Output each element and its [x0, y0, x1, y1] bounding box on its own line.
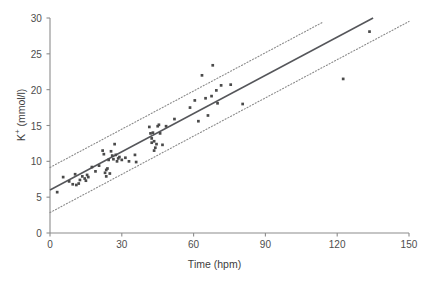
data-point [62, 176, 65, 179]
data-point [106, 167, 109, 170]
data-point [161, 144, 164, 147]
data-point [101, 149, 104, 152]
y-axis-title-suffix: (mmol/l) [15, 89, 27, 130]
data-point [158, 123, 161, 126]
y-axis-title-superscript: + [13, 129, 22, 133]
prediction-bands [50, 21, 409, 212]
regression-line [50, 18, 373, 190]
data-point [74, 173, 77, 176]
data-point [71, 183, 74, 186]
y-tick-label: 25 [16, 48, 42, 59]
data-point [204, 97, 207, 100]
data-point [207, 114, 210, 117]
data-point [216, 102, 219, 105]
data-point [56, 191, 59, 194]
data-point [201, 74, 204, 77]
y-tick-label: 5 [16, 192, 42, 203]
data-point [197, 120, 200, 123]
data-point [120, 159, 123, 162]
data-point [153, 149, 156, 152]
x-tick-label: 120 [329, 239, 346, 250]
data-point [85, 179, 88, 182]
data-point [103, 153, 106, 156]
y-axis-title: K+ (mmol/l) [13, 65, 27, 165]
data-point [189, 106, 192, 109]
data-point [110, 150, 113, 153]
data-point [134, 154, 137, 157]
data-point [107, 159, 110, 162]
data-point [124, 156, 127, 159]
x-tick-label: 150 [401, 239, 418, 250]
data-point [150, 141, 153, 144]
data-point [210, 95, 213, 98]
y-tick-label: 0 [16, 228, 42, 239]
data-point [193, 99, 196, 102]
data-point [113, 143, 116, 146]
data-point [81, 175, 84, 178]
x-tick-label: 90 [260, 239, 271, 250]
data-point [68, 180, 71, 183]
data-point [211, 64, 214, 67]
y-tick-label: 30 [16, 13, 42, 24]
data-point [173, 118, 176, 121]
data-point [155, 143, 158, 146]
data-point [229, 83, 232, 86]
data-point [241, 103, 244, 106]
data-point [368, 30, 371, 33]
x-tick-label: 30 [116, 239, 127, 250]
data-point [154, 146, 157, 149]
data-point [112, 158, 115, 161]
data-point [153, 140, 156, 143]
scatter-plot-canvas [0, 0, 429, 281]
data-point [77, 182, 80, 185]
data-point [165, 125, 168, 128]
data-point [104, 171, 107, 174]
data-point [128, 160, 131, 163]
data-point [215, 89, 218, 92]
data-point [159, 132, 162, 135]
y-axis-title-prefix: K [15, 134, 27, 141]
data-point [87, 176, 90, 179]
data-point [98, 164, 101, 167]
data-point [135, 161, 138, 164]
data-point [220, 84, 223, 87]
data-point [148, 126, 151, 129]
data-point [75, 184, 78, 187]
data-point [149, 132, 152, 135]
x-tick-label: 60 [188, 239, 199, 250]
data-point [152, 131, 155, 134]
data-point [108, 172, 111, 175]
data-point [94, 170, 97, 173]
x-axis-title: Time (hpm) [0, 258, 429, 270]
data-point [111, 154, 114, 157]
data-point [118, 156, 121, 159]
x-tick-label: 0 [47, 239, 53, 250]
data-point [116, 160, 119, 163]
data-point [114, 154, 117, 157]
chart-figure: 0306090120150051015202530 Time (hpm) K+ … [0, 0, 429, 281]
data-point [150, 137, 153, 140]
data-point [91, 166, 94, 169]
data-points [56, 30, 371, 193]
data-point [79, 179, 82, 182]
data-point [105, 175, 108, 178]
data-point [342, 78, 345, 81]
